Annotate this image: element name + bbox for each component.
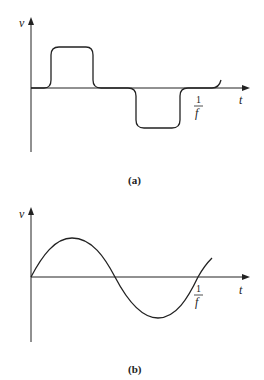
caption-a: (a) bbox=[128, 174, 141, 187]
figure-b: v t 1 f (b) bbox=[19, 207, 246, 376]
y-label-b: v bbox=[19, 207, 25, 221]
x-label-b: t bbox=[239, 283, 243, 297]
period-den-b: f bbox=[195, 295, 200, 309]
caption-b: (b) bbox=[128, 363, 142, 376]
period-num-a: 1 bbox=[196, 94, 201, 105]
x-label-a: t bbox=[239, 93, 243, 107]
waveform-figure: v t 1 f (a) v t 1 f (b) bbox=[0, 0, 264, 380]
figure-a: v t 1 f (a) bbox=[19, 16, 246, 187]
period-den-a: f bbox=[195, 106, 200, 120]
period-num-b: 1 bbox=[196, 283, 201, 294]
sine-waveform-b bbox=[31, 238, 212, 318]
y-label-a: v bbox=[19, 16, 25, 30]
